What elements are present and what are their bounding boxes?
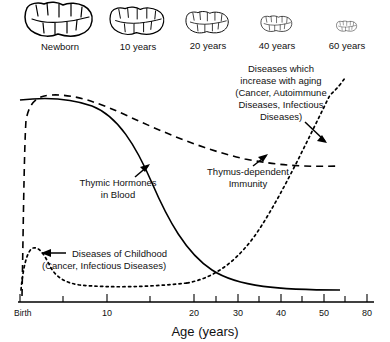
x-axis-label-40: 40: [276, 308, 286, 318]
aging-diseases-line-3: (Cancer, Autoimmune: [235, 87, 326, 98]
thymus-immunity-line-2: Immunity: [229, 178, 268, 189]
childhood-diseases-arrowhead-icon: [41, 249, 51, 257]
thymus-involution-figure: Newborn 10 years 20 years: [0, 0, 390, 342]
organ-illustration-row: Newborn 10 years 20 years: [25, 2, 365, 52]
childhood-diseases-line-2: (Cancer, Infectious Diseases): [42, 260, 166, 271]
organ-label-10-years: 10 years: [120, 41, 157, 52]
aging-diseases-arrowhead-icon: [317, 135, 327, 143]
x-axis-label-birth: Birth: [14, 308, 32, 318]
aging-diseases-line-4: Diseases, Infectious: [238, 99, 323, 110]
x-axis-label-80: 80: [362, 308, 372, 318]
annotation-thymic-hormones: Thymic Hormones in Blood: [79, 164, 156, 200]
thymus-40-years-illustration: 40 years: [259, 16, 296, 51]
x-axis: Birth 10 20 30 40 50 80 Age (years): [14, 294, 374, 339]
x-axis-label-20: 20: [189, 308, 199, 318]
aging-diseases-line-1: Diseases which: [248, 63, 314, 74]
annotation-childhood-diseases: Diseases of Childhood (Cancer, Infectiou…: [41, 248, 167, 271]
thymic-hormones-line-1: Thymic Hormones: [79, 177, 156, 188]
x-axis-label-50: 50: [319, 308, 329, 318]
thymic-hormones-line-2: in Blood: [101, 189, 135, 200]
aging-diseases-line-5: Diseases): [260, 111, 302, 122]
thymus-60-years-illustration: 60 years: [329, 21, 366, 51]
thymus-20-years-illustration: 20 years: [186, 12, 228, 51]
x-axis-label-30: 30: [233, 308, 243, 318]
organ-label-40-years: 40 years: [259, 40, 296, 51]
x-axis-title: Age (years): [171, 324, 238, 339]
organ-label-20-years: 20 years: [190, 40, 227, 51]
childhood-diseases-line-1: Diseases of Childhood: [72, 248, 167, 259]
annotation-aging-diseases: Diseases which increase with aging (Canc…: [235, 63, 327, 143]
organ-label-60-years: 60 years: [329, 40, 366, 51]
thymus-10-years-illustration: 10 years: [110, 7, 164, 52]
thymus-immunity-line-1: Thymus-dependent: [207, 166, 289, 177]
aging-diseases-line-2: increase with aging: [240, 75, 321, 86]
thymus-newborn-illustration: Newborn: [25, 2, 92, 52]
x-axis-label-10: 10: [102, 308, 112, 318]
organ-label-newborn: Newborn: [41, 41, 79, 52]
